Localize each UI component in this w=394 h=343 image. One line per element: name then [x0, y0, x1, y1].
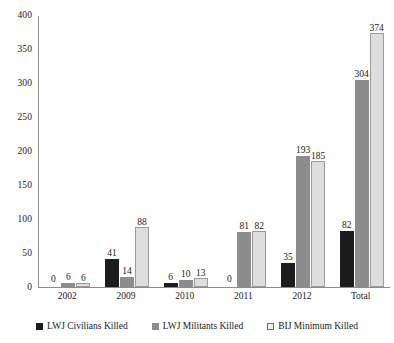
- legend-item-label: LWJ Civilians Killed: [47, 321, 128, 331]
- bar: 41: [105, 259, 119, 287]
- bar-value-label: 193: [296, 145, 310, 155]
- bar-group: 066: [46, 16, 90, 287]
- bar-value-label: 88: [137, 217, 147, 227]
- x-tick-label: 2010: [155, 291, 214, 302]
- bar-value-label: 14: [122, 266, 132, 276]
- bar: 13: [194, 278, 208, 287]
- plot-inner: 06641148861013081823519318582304374: [39, 16, 390, 287]
- y-tick-label: 0: [2, 283, 32, 293]
- bar: 14: [120, 277, 134, 287]
- bar-value-label: 41: [107, 248, 117, 258]
- plot-area: 06641148861013081823519318582304374: [38, 16, 390, 288]
- legend-item-label: BIJ Minimum Killed: [278, 321, 358, 331]
- bar-group: 35193185: [281, 16, 325, 287]
- y-tick-label: 200: [2, 147, 32, 157]
- bar: 304: [355, 80, 369, 287]
- bar: 35: [281, 263, 295, 287]
- bar: 6: [164, 283, 178, 287]
- bar-value-label: 35: [283, 252, 293, 262]
- bar: 88: [135, 227, 149, 287]
- y-tick-label: 300: [2, 79, 32, 89]
- bar: 374: [370, 33, 384, 287]
- bar-group: 82304374: [340, 16, 384, 287]
- bar: 6: [76, 283, 90, 287]
- bar-value-label: 6: [66, 272, 71, 282]
- bar-group: 411488: [105, 16, 149, 287]
- bar-value-label: 10: [181, 269, 191, 279]
- y-tick-label: 250: [2, 113, 32, 123]
- x-tick-label: 2009: [97, 291, 156, 302]
- bar-value-label: 13: [196, 268, 206, 278]
- y-tick-label: 400: [2, 11, 32, 21]
- x-tick-label: 2011: [214, 291, 273, 302]
- bar-value-label: 185: [311, 151, 325, 161]
- bar: 6: [61, 283, 75, 287]
- light-square-icon: [267, 323, 274, 330]
- bar: 193: [296, 156, 310, 287]
- bar: 82: [252, 231, 266, 287]
- legend-item-label: LWJ Militants Killed: [163, 321, 244, 331]
- bar-value-label: 304: [355, 69, 369, 79]
- y-tick-label: 50: [2, 249, 32, 259]
- bar-value-label: 81: [240, 221, 250, 231]
- y-tick-label: 350: [2, 45, 32, 55]
- y-tick-label: 100: [2, 215, 32, 225]
- y-tick-label: 150: [2, 181, 32, 191]
- bar-value-label: 374: [370, 23, 384, 33]
- bar: 81: [237, 232, 251, 287]
- bar-value-label: 6: [81, 273, 86, 283]
- legend-item[interactable]: BIJ Minimum Killed: [267, 321, 358, 331]
- x-tick-label: 2012: [273, 291, 332, 302]
- bar-group: 61013: [164, 16, 208, 287]
- bar-value-label: 82: [342, 220, 352, 230]
- bar: 10: [179, 280, 193, 287]
- bar-value-label: 0: [51, 274, 56, 284]
- bar-value-label: 0: [227, 274, 232, 284]
- black-square-icon: [36, 323, 43, 330]
- bar-value-label: 6: [168, 272, 173, 282]
- bar: 185: [311, 161, 325, 287]
- gray-square-icon: [152, 323, 159, 330]
- chart-legend: LWJ Civilians KilledLWJ Militants Killed…: [0, 321, 394, 331]
- bar-value-label: 82: [255, 221, 265, 231]
- bar-group: 08182: [222, 16, 266, 287]
- legend-item[interactable]: LWJ Civilians Killed: [36, 321, 128, 331]
- bar-chart: 050100150200250300350400 066411488610130…: [0, 0, 394, 343]
- bar: 82: [340, 231, 354, 287]
- x-tick-label: Total: [331, 291, 390, 302]
- legend-item[interactable]: LWJ Militants Killed: [152, 321, 244, 331]
- x-tick-label: 2002: [38, 291, 97, 302]
